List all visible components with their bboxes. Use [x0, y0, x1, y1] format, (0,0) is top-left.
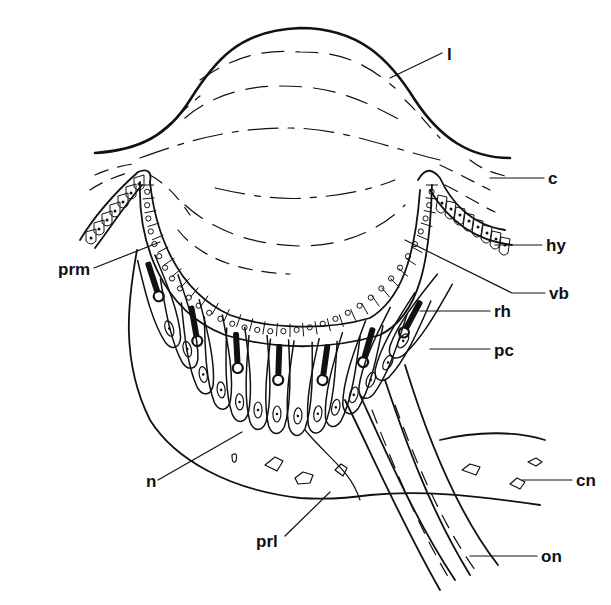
nucleolus: [401, 339, 405, 343]
connective-nucleus: [462, 464, 480, 475]
label-lens: l: [447, 45, 452, 64]
vitreous-cell-nucleus: [268, 329, 273, 334]
vitreous-cells: [142, 185, 438, 337]
label-nucleus: n: [146, 472, 156, 491]
nucleolus: [316, 412, 319, 415]
hypodermis-cell-nucleus: [98, 228, 101, 231]
cuticle-striation: [470, 160, 505, 176]
hypodermis-cell-nucleus: [90, 237, 93, 240]
vitreous-cell-nucleus: [207, 310, 212, 315]
nucleolus: [202, 373, 205, 376]
hypodermis-cell-nucleus: [114, 210, 117, 213]
label-pigment-cell: pc: [494, 341, 514, 360]
hypodermis-cell-nucleus: [106, 219, 109, 222]
vitreous-cell-wall: [417, 235, 428, 240]
nerve-fiber: [395, 405, 475, 570]
vitreous-cell-wall: [391, 278, 400, 287]
label-rhabdom: rh: [494, 302, 511, 321]
vitreous-body: [140, 182, 438, 346]
vitreous-cell-wall: [152, 235, 163, 240]
lens-lamination-line: [405, 100, 440, 138]
vitreous-cell-nucleus: [145, 203, 150, 208]
vitreous-cell-nucleus: [162, 265, 167, 270]
vitreous-cell-wall: [362, 303, 368, 314]
vitreous-cell-nucleus: [281, 329, 286, 334]
hypodermis-cell-nucleus: [130, 192, 133, 195]
vitreous-cell-wall: [237, 314, 241, 326]
nerve-fiber: [305, 430, 360, 500]
vitreous-cell-nucleus: [148, 229, 153, 234]
connective-nucleus: [528, 458, 542, 466]
connective-nucleus: [295, 472, 313, 484]
hypodermis-cell-nucleus: [122, 201, 125, 204]
cuticle-striation: [150, 175, 190, 215]
label-postretinal-layer: prl: [256, 532, 278, 551]
nucleolus: [238, 401, 241, 404]
vitreous-cell-wall: [382, 288, 390, 298]
rhabdom: [145, 261, 161, 293]
retina: [135, 254, 455, 437]
rhabdom: [233, 332, 241, 364]
nucleolus: [334, 406, 337, 409]
postretinal-layer: [129, 250, 545, 505]
nucleolus: [297, 415, 300, 418]
hypodermis-cell-nucleus: [486, 232, 489, 235]
rhabdom-end: [233, 363, 244, 374]
capsule-upper: [440, 433, 545, 440]
lens-lower-line: [178, 230, 290, 274]
connective-nucleus: [232, 454, 237, 462]
label-hypodermis: hy: [546, 236, 566, 255]
connective-nucleus: [335, 464, 347, 476]
vitreous-cell-nucleus: [418, 229, 423, 234]
label-cuticle: c: [548, 169, 557, 188]
vitreous-cell-nucleus: [379, 286, 384, 291]
cuticle-striation: [95, 163, 140, 175]
optic-nerve: [305, 365, 498, 590]
lens: [90, 28, 510, 274]
vitreous-cell-nucleus: [357, 303, 362, 308]
retinal-cell: [303, 338, 340, 435]
hypodermis-right-cells: [436, 195, 510, 255]
nerve-fiber: [405, 365, 498, 565]
hypodermis-cell-nucleus: [468, 220, 471, 223]
ocellus-diagram: l c hy vb rh pc cn on prm n prl: [0, 0, 611, 605]
lens-lamination-line: [200, 51, 395, 88]
vitreous-cell-nucleus: [294, 327, 299, 332]
rhabdom-end: [317, 374, 328, 385]
vitreous-cell-nucleus: [333, 316, 338, 321]
nerve-fiber: [360, 395, 455, 580]
vitreous-cell-nucleus: [145, 189, 150, 194]
vitreous-cell-wall: [315, 321, 317, 334]
hypodermis-cell-nucleus: [459, 214, 462, 217]
vitreous-cell-nucleus: [423, 216, 428, 221]
label-connective-nuclei: cn: [576, 471, 596, 490]
hypodermis-cell-nucleus: [477, 226, 480, 229]
vitreous-cell-wall: [303, 323, 304, 336]
hypodermis-left-cells: [86, 175, 144, 244]
nucleolus: [386, 361, 390, 365]
lens-lower-line: [215, 180, 395, 199]
retinal-cell: [337, 319, 386, 416]
hypodermis-cell-nucleus: [450, 208, 453, 211]
vitreous-cup-inner: [150, 182, 420, 327]
vitreous-cell-nucleus: [255, 327, 260, 332]
lens-lamination-line: [160, 96, 200, 132]
rhabdom: [275, 344, 282, 376]
nucleolus: [220, 388, 223, 391]
rhabdom-end: [273, 375, 283, 385]
nucleolus: [276, 413, 279, 416]
label-vitreous-body: vb: [549, 284, 569, 303]
nucleolus: [257, 409, 260, 412]
hypodermis-cell-nucleus: [495, 238, 498, 241]
leader-vb: [405, 240, 545, 293]
leader-n: [158, 432, 242, 480]
hypodermis-cell-nucleus: [441, 202, 444, 205]
vitreous-cell-wall: [158, 247, 169, 253]
lens-lamination-line: [140, 128, 440, 160]
label-preretinal-membrane: prm: [58, 260, 90, 279]
leader-l: [390, 53, 442, 78]
retinal-cell-outline: [337, 319, 386, 416]
vitreous-cell-nucleus: [230, 321, 235, 326]
vitreous-cell-nucleus: [345, 310, 350, 315]
label-optic-nerve: on: [541, 547, 562, 566]
